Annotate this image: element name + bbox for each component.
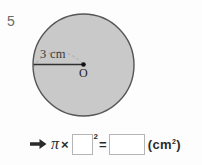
right-arrow-icon xyxy=(30,137,47,151)
worksheet-page: 5 3 cm O π × 2 = (cm2) xyxy=(0,0,202,165)
problem-number: 5 xyxy=(7,14,15,28)
unit-label: (cm2) xyxy=(148,137,181,152)
area-answer-box[interactable] xyxy=(109,134,145,155)
circle-figure xyxy=(32,13,135,117)
area-equation-row: π × 2 = (cm2) xyxy=(30,131,181,157)
circle-figure-svg xyxy=(32,13,135,117)
exponent-two: 2 xyxy=(94,132,98,141)
unit-text: (cm xyxy=(148,137,172,152)
equals-symbol: = xyxy=(99,138,107,151)
radius-answer-box[interactable] xyxy=(72,134,93,155)
center-point-label: O xyxy=(79,67,88,79)
pi-symbol: π xyxy=(51,136,59,152)
unit-close-paren: ) xyxy=(176,137,181,152)
radius-label: 3 cm xyxy=(40,48,66,61)
multiplication-symbol: × xyxy=(61,138,69,151)
